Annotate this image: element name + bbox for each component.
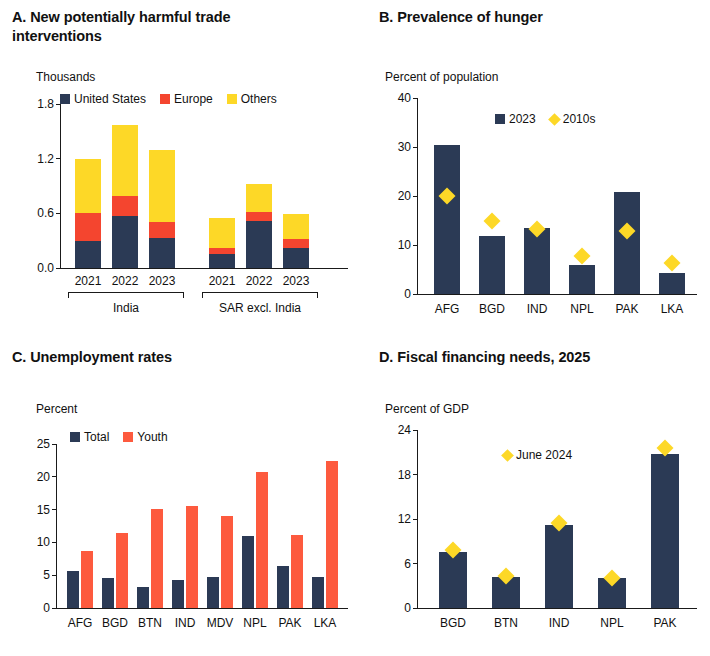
- bar-c-BTN-total: [137, 587, 149, 608]
- bar-c-BGD-total: [102, 578, 114, 608]
- b-ytick-2: 20: [377, 189, 411, 203]
- bar-b-BGD: [479, 236, 505, 294]
- d-ytick-0: 0: [377, 601, 411, 615]
- bar-a-2022-europe-4: [246, 212, 272, 221]
- b-ytickmark-0: [413, 294, 417, 295]
- a-ytickmark-3: [56, 104, 60, 105]
- b-ytickmark-3: [413, 147, 417, 148]
- bar-a-2021-united-states-3: [209, 254, 235, 268]
- bar-a-2022-united-states-1: [112, 216, 138, 268]
- xtick-d-1: BTN: [481, 616, 531, 630]
- d-ytick-4: 24: [377, 423, 411, 437]
- bar-c-BGD-youth: [116, 533, 128, 608]
- xtick-b-5: LKA: [647, 302, 697, 316]
- a-ytick-3: 1.8: [20, 97, 54, 111]
- d-y-axis: [417, 430, 418, 608]
- bracket-line-0: [68, 292, 184, 293]
- xtick-b-3: NPL: [557, 302, 607, 316]
- b-ytickmark-4: [413, 98, 417, 99]
- marker-b-LKA: [664, 255, 681, 272]
- bracket-left-0: [68, 292, 69, 298]
- panel-c-plot: 0510152025AFGBGDBTNINDMDVNPLPAKLKA: [8, 344, 358, 656]
- bar-d-PAK: [651, 454, 679, 608]
- bar-a-2023-others-2: [149, 150, 175, 223]
- bar-c-IND-total: [172, 580, 184, 608]
- c-ytick-0: 0: [16, 601, 50, 615]
- bar-a-2021-europe-0: [75, 213, 101, 240]
- bar-a-2023-others-5: [283, 214, 309, 239]
- xtick-a-5: 2023: [273, 274, 319, 288]
- bar-a-2023-europe-5: [283, 239, 309, 248]
- bar-a-2021-others-3: [209, 218, 235, 248]
- marker-b-BGD: [484, 213, 501, 230]
- xtick-a-2: 2023: [139, 274, 185, 288]
- d-ytickmark-0: [413, 608, 417, 609]
- c-ytickmark-5: [52, 444, 56, 445]
- xtick-c-7: LKA: [302, 616, 348, 630]
- d-ytick-1: 6: [377, 557, 411, 571]
- panel-b-plot: 010203040AFGBGDINDNPLPAKLKA: [375, 4, 710, 328]
- xtick-b-1: BGD: [467, 302, 517, 316]
- bar-c-NPL-youth: [256, 472, 268, 608]
- bar-a-2023-united-states-2: [149, 238, 175, 268]
- xtick-d-3: NPL: [587, 616, 637, 630]
- c-ytick-1: 5: [16, 568, 50, 582]
- bar-a-2022-others-4: [246, 184, 272, 211]
- c-ytickmark-4: [52, 476, 56, 477]
- bar-c-LKA-youth: [326, 461, 338, 608]
- b-ytickmark-1: [413, 245, 417, 246]
- b-ytick-3: 30: [377, 140, 411, 154]
- a-y-axis: [60, 104, 61, 268]
- bracket-left-1: [202, 292, 203, 298]
- panel-c: C. Unemployment rates Percent Total Yout…: [8, 344, 358, 656]
- bar-d-IND: [545, 525, 573, 608]
- c-x-axis: [56, 608, 348, 609]
- b-y-axis: [417, 98, 418, 294]
- bar-a-2023-europe-2: [149, 222, 175, 237]
- a-x-axis: [60, 268, 348, 269]
- bar-a-2022-united-states-4: [246, 221, 272, 268]
- bar-a-2023-united-states-5: [283, 248, 309, 268]
- c-ytickmark-2: [52, 542, 56, 543]
- bar-b-NPL: [569, 265, 595, 294]
- bar-c-PAK-youth: [291, 535, 303, 608]
- bar-c-IND-youth: [186, 506, 198, 608]
- figure-page: A. New potentially harmful trade interve…: [0, 0, 710, 656]
- bar-a-2022-europe-1: [112, 196, 138, 216]
- group-label-a-0: India: [56, 301, 196, 315]
- b-ytick-0: 0: [377, 287, 411, 301]
- d-ytick-2: 12: [377, 512, 411, 526]
- c-y-axis: [56, 444, 57, 608]
- xtick-b-2: IND: [512, 302, 562, 316]
- d-x-axis: [417, 608, 697, 609]
- bar-c-MDV-total: [207, 577, 219, 608]
- bracket-line-1: [202, 292, 318, 293]
- bar-b-PAK: [614, 192, 640, 294]
- panel-d-plot: 06121824BGDBTNINDNPLPAK: [375, 344, 710, 656]
- c-ytick-5: 25: [16, 437, 50, 451]
- bar-a-2021-others-0: [75, 159, 101, 214]
- bracket-right-1: [317, 292, 318, 298]
- b-x-axis: [417, 294, 697, 295]
- a-ytickmark-1: [56, 213, 60, 214]
- d-ytickmark-4: [413, 430, 417, 431]
- c-ytick-2: 10: [16, 535, 50, 549]
- d-ytickmark-2: [413, 519, 417, 520]
- bar-c-BTN-youth: [151, 509, 163, 608]
- bar-b-LKA: [659, 273, 685, 294]
- panel-d: D. Fiscal financing needs, 2025 Percent …: [375, 344, 710, 656]
- a-ytick-1: 0.6: [20, 206, 54, 220]
- bar-c-NPL-total: [242, 536, 254, 608]
- c-ytickmark-1: [52, 575, 56, 576]
- group-bracket-a-0: [68, 292, 184, 299]
- bar-a-2021-europe-3: [209, 248, 235, 254]
- bar-a-2022-others-1: [112, 125, 138, 196]
- d-ytick-3: 18: [377, 468, 411, 482]
- bar-c-MDV-youth: [221, 516, 233, 608]
- xtick-b-4: PAK: [602, 302, 652, 316]
- bar-a-2021-united-states-0: [75, 241, 101, 268]
- bar-d-BGD: [439, 552, 467, 608]
- xtick-d-0: BGD: [428, 616, 478, 630]
- panel-a: A. New potentially harmful trade interve…: [8, 4, 358, 328]
- b-ytick-4: 40: [377, 91, 411, 105]
